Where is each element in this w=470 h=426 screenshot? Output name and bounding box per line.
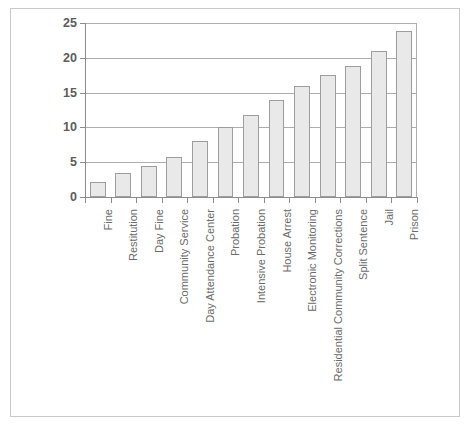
x-axis-category-label: Probation xyxy=(230,209,241,256)
bar xyxy=(269,100,285,197)
x-axis-category-label: House Arrest xyxy=(282,209,293,273)
x-tick-mark xyxy=(391,197,392,203)
bar xyxy=(192,141,208,197)
bar xyxy=(396,31,412,197)
x-axis-line xyxy=(85,197,418,198)
x-axis-category-label: Day Fine xyxy=(154,209,165,253)
bar xyxy=(218,127,234,197)
x-tick-mark xyxy=(315,197,316,203)
x-axis-category-label: Residential Community Corrections xyxy=(333,209,344,381)
gridline xyxy=(85,23,417,24)
x-axis-category-label: Day Attendance Center xyxy=(205,209,216,323)
y-tick-mark xyxy=(80,58,85,59)
y-tick-label: 5 xyxy=(37,156,77,169)
y-tick-label: 10 xyxy=(37,121,77,134)
x-tick-mark xyxy=(136,197,137,203)
bar xyxy=(345,66,361,197)
x-axis-category-label: Intensive Probation xyxy=(256,209,267,303)
x-tick-mark xyxy=(366,197,367,203)
x-axis-category-label: Jail xyxy=(384,209,395,226)
x-tick-mark xyxy=(111,197,112,203)
bar xyxy=(90,182,106,197)
x-tick-mark xyxy=(238,197,239,203)
y-tick-label: 25 xyxy=(37,17,77,30)
x-axis-category-label: Restitution xyxy=(128,209,139,261)
x-tick-mark xyxy=(187,197,188,203)
y-tick-mark xyxy=(80,23,85,24)
bar xyxy=(141,166,157,197)
bar xyxy=(371,51,387,197)
x-tick-mark xyxy=(417,197,418,203)
bar xyxy=(243,115,259,197)
bar xyxy=(115,173,131,197)
y-tick-mark xyxy=(80,127,85,128)
x-axis-category-label: Split Sentence xyxy=(358,209,369,280)
gridline xyxy=(85,58,417,59)
bar xyxy=(166,157,182,197)
y-tick-label: 15 xyxy=(37,87,77,100)
y-axis-line xyxy=(85,23,86,198)
plot-area: 0510152025 FineRestitutionDay FineCommun… xyxy=(85,23,417,197)
y-tick-mark xyxy=(80,162,85,163)
y-tick-label: 20 xyxy=(37,52,77,65)
gridline xyxy=(85,93,417,94)
bar xyxy=(294,86,310,197)
x-axis-category-label: Prison xyxy=(409,209,420,240)
x-axis-category-label: Electronic Monitoring xyxy=(307,209,318,312)
x-axis-category-label: Community Service xyxy=(179,209,190,304)
y-tick-mark xyxy=(80,93,85,94)
x-tick-mark xyxy=(162,197,163,203)
plot-frame-right xyxy=(416,23,417,197)
x-tick-mark xyxy=(289,197,290,203)
x-tick-mark xyxy=(213,197,214,203)
x-tick-mark xyxy=(340,197,341,203)
x-tick-mark xyxy=(264,197,265,203)
y-tick-label: 0 xyxy=(37,191,77,204)
chart-figure: 0510152025 FineRestitutionDay FineCommun… xyxy=(10,8,460,417)
bar xyxy=(320,75,336,197)
x-tick-mark xyxy=(85,197,86,203)
x-axis-category-label: Fine xyxy=(103,209,114,230)
